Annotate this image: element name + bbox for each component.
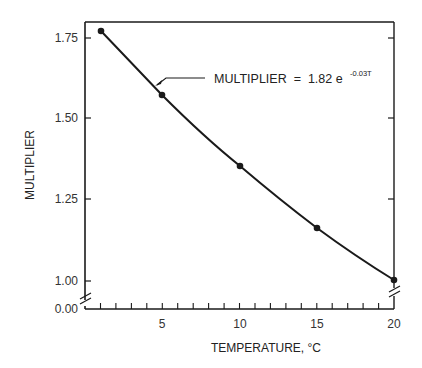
arrowhead-icon xyxy=(155,80,162,86)
equation-label: MULTIPLIER = 1.82 e xyxy=(214,72,343,86)
data-point-t1 xyxy=(98,28,105,35)
annotation-leader xyxy=(157,78,205,85)
x-tick-label-15: 15 xyxy=(310,317,324,331)
y-tick-label-1-25: 1.25 xyxy=(55,192,79,206)
y-tick-label-0-00: 0.00 xyxy=(55,302,79,316)
x-tick-label-10: 10 xyxy=(233,317,247,331)
y-tick-label-1-75: 1.75 xyxy=(55,31,79,45)
data-point-t15 xyxy=(314,225,321,232)
x-ticks xyxy=(101,303,379,309)
data-point-t5 xyxy=(159,92,166,99)
y-tick-label-1-50: 1.50 xyxy=(55,111,79,125)
chart-canvas: 1.75 1.50 1.25 1.00 0.00 5 10 15 20 TEMP… xyxy=(0,0,422,368)
data-point-t10 xyxy=(237,163,244,170)
equation-exponent: -0.03T xyxy=(350,69,372,78)
data-point-t20 xyxy=(391,277,398,284)
x-tick-label-20: 20 xyxy=(387,317,401,331)
x-axis-title: TEMPERATURE, °C xyxy=(211,341,321,355)
y-ticks-right xyxy=(388,38,394,199)
y-axis-title: MULTIPLIER xyxy=(23,130,37,200)
x-tick-label-5: 5 xyxy=(159,317,166,331)
y-tick-label-1-00: 1.00 xyxy=(55,274,79,288)
y-ticks-left xyxy=(85,38,91,281)
data-markers xyxy=(98,28,398,284)
